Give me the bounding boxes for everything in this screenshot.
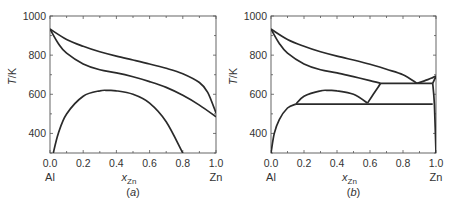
phase-boundary-solidus [271,29,381,83]
x-axis-label: xZn [121,171,137,186]
x-tick-label: 1.0 [209,157,224,169]
phase-diagram-figure: 0.00.20.40.60.81.04006008001000T/KAlZnxZ… [0,0,456,209]
x-tick-label: 0.0 [43,157,58,169]
plot-frame [50,16,216,153]
plot-frame [271,16,436,153]
x-tick-label: 0.8 [175,157,190,169]
x-tick-label: 0.6 [363,157,378,169]
chart-panel-b: 0.00.20.40.60.81.04006008001000T/KAlZnxZ… [227,10,443,198]
y-axis-label: T/K [227,67,239,85]
x-end-label-left: Al [266,171,276,183]
x-tick-label: 0.4 [109,157,124,169]
x-end-label-left: Al [45,171,55,183]
x-end-label-right: Zn [430,171,443,183]
y-tick-label: 1000 [23,10,47,22]
x-axis-label: xZn [341,171,357,186]
x-tick-label: 0.8 [396,157,411,169]
x-tick-label: 1.0 [429,157,444,169]
phase-boundary-miscibility-gap [53,90,183,153]
x-tick-label: 0.6 [142,157,157,169]
x-end-label-right: Zn [210,171,223,183]
phase-boundary-zn-solvus [433,83,436,153]
y-tick-label: 400 [28,127,46,139]
panel-caption: (b) [347,186,360,198]
phase-boundary-miscibility-gap-dome [296,90,368,104]
phase-boundary-fcc-boundary-above-monotectoid [368,83,381,103]
x-tick-label: 0.4 [330,157,345,169]
y-tick-label: 1000 [244,10,268,22]
y-tick-label: 400 [249,127,267,139]
x-tick-label: 0.2 [76,157,91,169]
y-tick-label: 800 [28,49,46,61]
x-tick-label: 0.0 [264,157,279,169]
y-tick-label: 600 [28,88,46,100]
y-tick-label: 600 [249,88,267,100]
chart-panel-a: 0.00.20.40.60.81.04006008001000T/KAlZnxZ… [6,10,223,198]
phase-boundary-solvus-fcc-al-side- [271,104,296,153]
panel-caption: (a) [126,186,139,198]
y-axis-label: T/K [6,67,18,85]
y-tick-label: 800 [249,49,267,61]
x-tick-label: 0.2 [297,157,312,169]
